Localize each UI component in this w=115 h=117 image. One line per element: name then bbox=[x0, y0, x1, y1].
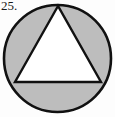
geometry-figure bbox=[0, 0, 115, 117]
problem-number-label: 25. bbox=[1, 0, 17, 13]
figure-container: 25. bbox=[0, 0, 115, 117]
